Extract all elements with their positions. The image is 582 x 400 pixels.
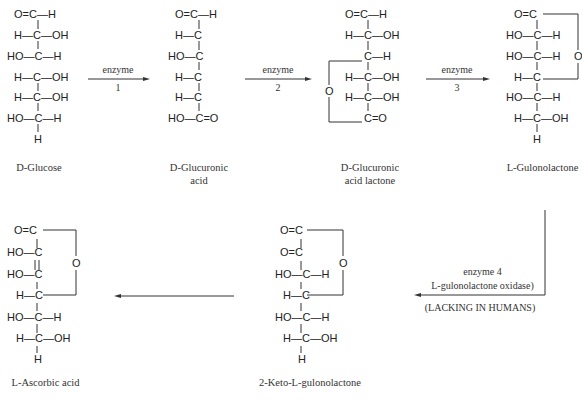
atom-row: HO—C—H (7, 311, 61, 323)
label-line-2: acid lactone (330, 174, 410, 187)
atom-row: C=O (364, 112, 387, 124)
atom-row: O=C (14, 224, 37, 236)
atom-row: H—C (175, 91, 202, 103)
atom-row: H—C (175, 29, 202, 41)
label-line-2: acid (164, 174, 234, 187)
atom-row: HO—C—H (275, 311, 329, 323)
atom-row: HO—C—H (506, 50, 560, 62)
label-line-1: D-Glucuronic (164, 161, 234, 174)
arrow-1-label-bottom: 1 (88, 82, 148, 93)
atom-row: O=C (514, 8, 537, 20)
ring-oxygen: O (574, 50, 582, 62)
atom-row: HO—C (7, 268, 42, 280)
atom-row: H—C—OH (14, 71, 68, 83)
atom-row: H—C (175, 71, 202, 83)
arrow-3-label-bottom: 3 (426, 82, 488, 93)
label-d-glucuronic-acid-lactone: D-Glucuronic acid lactone (330, 161, 410, 187)
atom-row: C—H (364, 50, 391, 62)
atom-row: H—C (514, 71, 541, 83)
arrow-2-label-top: enzyme (245, 64, 311, 75)
ring-oxygen: O (339, 257, 348, 269)
atom-row: HO—C (168, 50, 203, 62)
atom-row: H—C (283, 289, 310, 301)
label-l-gulonolactone: L-Gulonolactone (505, 161, 580, 174)
atom-row: H—C (16, 289, 43, 301)
atom-row: H—C—OH (514, 112, 568, 124)
atom-row: H—C—OH (14, 91, 68, 103)
label-l-ascorbic-acid: L-Ascorbic acid (8, 376, 83, 389)
atom-row: O=C—H (14, 8, 56, 20)
ring-oxygen: O (325, 85, 334, 97)
atom-row: H—C—OH (345, 91, 399, 103)
atom-row: O=C (280, 224, 303, 236)
atom-row: O=C (280, 246, 303, 258)
atom-row: H (533, 133, 541, 145)
atom-row: HO—C—H (506, 91, 560, 103)
atom-row: HO—C—H (7, 50, 61, 62)
atom-row: HO—C=O (168, 112, 218, 124)
atom-row: H (298, 353, 306, 365)
arrow-4-label-top: enzyme 4 (420, 266, 545, 277)
ring-oxygen: O (72, 257, 81, 269)
arrow-2-label-bottom: 2 (245, 82, 311, 93)
arrow-4-note: (LACKING IN HUMANS) (415, 302, 545, 313)
atom-row: H—C—OH (14, 29, 68, 41)
atom-row: HO—C—H (275, 268, 329, 280)
label-2-keto-l-gulonolactone: 2-Keto-L-gulonolactone (255, 376, 365, 389)
atom-row: H (34, 353, 42, 365)
atom-row: H (34, 133, 42, 145)
atom-row: O=C—H (175, 8, 217, 20)
atom-row: H—C—OH (345, 71, 399, 83)
pathway-diagram: O=C—H H—C—OH HO—C—H H—C—OH H—C—OH HO—C—H… (0, 0, 582, 400)
atom-row: HO—C (7, 246, 42, 258)
arrow-3-label-top: enzyme (426, 64, 488, 75)
label-d-glucose: D-Glucose (14, 161, 64, 174)
label-line-1: D-Glucuronic (330, 161, 410, 174)
atom-row: HO—C—H (7, 112, 61, 124)
atom-row: H—C—OH (16, 332, 70, 344)
arrow-4-label-bottom: L-gulonolactone oxidase) (415, 280, 550, 291)
atom-row: H—C—OH (283, 332, 337, 344)
atom-row: HO—C—H (506, 29, 560, 41)
atom-row: O=C—H (345, 8, 387, 20)
atom-row: H—C—OH (345, 29, 399, 41)
arrow-1-label-top: enzyme (88, 64, 148, 75)
label-d-glucuronic-acid: D-Glucuronic acid (164, 161, 234, 187)
